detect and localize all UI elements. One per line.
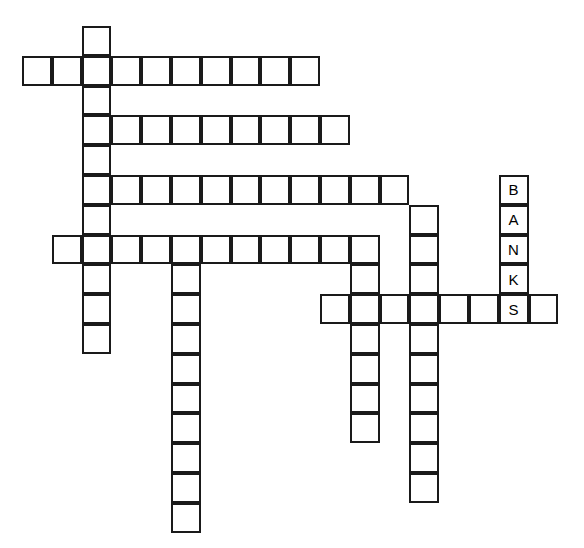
- crossword-cell-empty[interactable]: [409, 264, 439, 294]
- crossword-cell-empty[interactable]: [529, 294, 559, 324]
- crossword-cell-empty[interactable]: [171, 354, 201, 384]
- crossword-cell-empty[interactable]: [141, 56, 171, 86]
- crossword-cell-empty[interactable]: [111, 235, 141, 265]
- crossword-cell-empty[interactable]: [231, 235, 261, 265]
- crossword-cell-empty[interactable]: [260, 56, 290, 86]
- crossword-cell-empty[interactable]: [171, 115, 201, 145]
- crossword-cell-empty[interactable]: [409, 443, 439, 473]
- crossword-cell-empty[interactable]: [320, 175, 350, 205]
- crossword-cell-empty[interactable]: [171, 503, 201, 533]
- crossword-cell-empty[interactable]: [320, 235, 350, 265]
- crossword-cell-empty[interactable]: [201, 56, 231, 86]
- crossword-cell-empty[interactable]: [290, 115, 320, 145]
- crossword-cell-empty[interactable]: [409, 384, 439, 414]
- crossword-cell-empty[interactable]: [260, 235, 290, 265]
- crossword-cell-empty[interactable]: [350, 294, 380, 324]
- crossword-cell-empty[interactable]: [409, 235, 439, 265]
- crossword-cell-empty[interactable]: [260, 115, 290, 145]
- crossword-cell-letter[interactable]: S: [499, 294, 529, 324]
- crossword-cell-empty[interactable]: [52, 235, 82, 265]
- crossword-cell-empty[interactable]: [409, 473, 439, 503]
- crossword-cell-empty[interactable]: [171, 384, 201, 414]
- crossword-cell-empty[interactable]: [171, 235, 201, 265]
- crossword-cell-empty[interactable]: [171, 473, 201, 503]
- crossword-cell-empty[interactable]: [82, 26, 112, 56]
- crossword-cell-empty[interactable]: [290, 175, 320, 205]
- crossword-cell-empty[interactable]: [231, 56, 261, 86]
- crossword-cell-empty[interactable]: [171, 56, 201, 86]
- crossword-cell-empty[interactable]: [141, 175, 171, 205]
- crossword-cell-empty[interactable]: [111, 115, 141, 145]
- crossword-cell-empty[interactable]: [171, 413, 201, 443]
- crossword-cell-empty[interactable]: [409, 354, 439, 384]
- crossword-cell-empty[interactable]: [320, 294, 350, 324]
- crossword-grid: BANKS: [0, 0, 584, 548]
- crossword-cell-empty[interactable]: [201, 235, 231, 265]
- crossword-cell-empty[interactable]: [171, 175, 201, 205]
- crossword-cell-empty[interactable]: [82, 145, 112, 175]
- crossword-cell-empty[interactable]: [201, 175, 231, 205]
- crossword-cell-empty[interactable]: [82, 115, 112, 145]
- crossword-cell-empty[interactable]: [350, 354, 380, 384]
- crossword-cell-empty[interactable]: [82, 294, 112, 324]
- crossword-cell-empty[interactable]: [380, 175, 410, 205]
- crossword-cell-empty[interactable]: [320, 115, 350, 145]
- crossword-cell-empty[interactable]: [171, 294, 201, 324]
- crossword-cell-empty[interactable]: [350, 413, 380, 443]
- crossword-cell-letter[interactable]: N: [499, 235, 529, 265]
- crossword-cell-empty[interactable]: [350, 264, 380, 294]
- crossword-cell-empty[interactable]: [260, 175, 290, 205]
- crossword-cell-empty[interactable]: [350, 384, 380, 414]
- crossword-cell-empty[interactable]: [82, 205, 112, 235]
- crossword-cell-empty[interactable]: [350, 324, 380, 354]
- crossword-cell-empty[interactable]: [111, 175, 141, 205]
- crossword-cell-empty[interactable]: [409, 413, 439, 443]
- crossword-cell-empty[interactable]: [171, 443, 201, 473]
- crossword-cell-empty[interactable]: [201, 115, 231, 145]
- crossword-cell-empty[interactable]: [231, 115, 261, 145]
- crossword-cell-empty[interactable]: [469, 294, 499, 324]
- crossword-cell-empty[interactable]: [380, 294, 410, 324]
- crossword-cell-empty[interactable]: [82, 235, 112, 265]
- crossword-cell-empty[interactable]: [290, 56, 320, 86]
- crossword-cell-empty[interactable]: [409, 205, 439, 235]
- crossword-cell-empty[interactable]: [439, 294, 469, 324]
- crossword-cell-empty[interactable]: [290, 235, 320, 265]
- crossword-cell-empty[interactable]: [22, 56, 52, 86]
- crossword-cell-letter[interactable]: K: [499, 264, 529, 294]
- crossword-cell-empty[interactable]: [82, 324, 112, 354]
- crossword-cell-empty[interactable]: [171, 324, 201, 354]
- crossword-cell-letter[interactable]: A: [499, 205, 529, 235]
- crossword-cell-empty[interactable]: [350, 235, 380, 265]
- crossword-cell-empty[interactable]: [350, 175, 380, 205]
- crossword-cell-empty[interactable]: [82, 175, 112, 205]
- crossword-cell-empty[interactable]: [171, 264, 201, 294]
- crossword-cell-empty[interactable]: [82, 56, 112, 86]
- crossword-cell-empty[interactable]: [82, 264, 112, 294]
- crossword-cell-empty[interactable]: [111, 56, 141, 86]
- crossword-cell-empty[interactable]: [231, 175, 261, 205]
- crossword-cell-empty[interactable]: [141, 115, 171, 145]
- crossword-cell-letter[interactable]: B: [499, 175, 529, 205]
- crossword-cell-empty[interactable]: [409, 294, 439, 324]
- crossword-cell-empty[interactable]: [141, 235, 171, 265]
- crossword-cell-empty[interactable]: [409, 324, 439, 354]
- crossword-cell-empty[interactable]: [82, 86, 112, 116]
- crossword-cell-empty[interactable]: [52, 56, 82, 86]
